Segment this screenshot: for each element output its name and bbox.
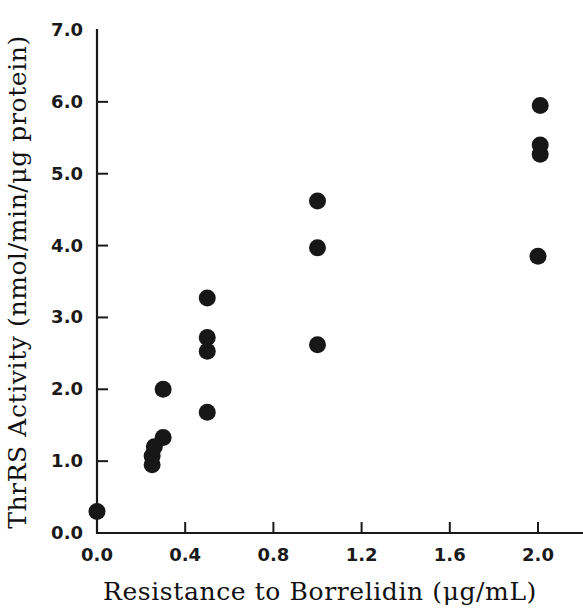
x-axis-title: Resistance to Borrelidin (μg/mL) (103, 577, 537, 606)
y-tick-label: 0.0 (51, 522, 83, 543)
x-tick-label: 0.4 (169, 544, 201, 565)
axis-frame (97, 30, 582, 533)
data-point (89, 503, 106, 520)
y-tick-label: 7.0 (51, 19, 83, 40)
data-point (155, 429, 172, 446)
data-point (199, 290, 216, 307)
x-tick-label: 1.2 (346, 544, 378, 565)
x-tick-label: 2.0 (522, 544, 554, 565)
x-tick-label: 0.0 (81, 544, 113, 565)
data-point (532, 97, 549, 114)
y-axis-title: ThrRS Activity (nmol/min/μg protein) (3, 35, 32, 529)
y-tick-label: 2.0 (51, 378, 83, 399)
data-point (532, 136, 549, 153)
y-axis-ticks (97, 102, 108, 461)
x-axis-tick-labels: 0.00.40.81.21.62.0 (81, 544, 554, 565)
y-tick-label: 6.0 (51, 91, 83, 112)
chart-page: 0.01.02.03.04.05.06.07.0 0.00.40.81.21.6… (0, 0, 583, 611)
x-axis-ticks (185, 522, 538, 533)
data-point (309, 239, 326, 256)
x-tick-label: 1.6 (434, 544, 466, 565)
data-point (309, 336, 326, 353)
y-tick-label: 4.0 (51, 235, 83, 256)
y-axis-tick-labels: 0.01.02.03.04.05.06.07.0 (51, 19, 83, 543)
data-point (199, 404, 216, 421)
data-point (309, 193, 326, 210)
data-point (530, 248, 547, 265)
data-point (155, 381, 172, 398)
y-tick-label: 1.0 (51, 450, 83, 471)
scatter-plot: 0.01.02.03.04.05.06.07.0 0.00.40.81.21.6… (0, 0, 583, 611)
data-point-group (89, 97, 549, 520)
data-point (199, 329, 216, 346)
y-tick-label: 5.0 (51, 163, 83, 184)
x-tick-label: 0.8 (257, 544, 289, 565)
y-tick-label: 3.0 (51, 306, 83, 327)
